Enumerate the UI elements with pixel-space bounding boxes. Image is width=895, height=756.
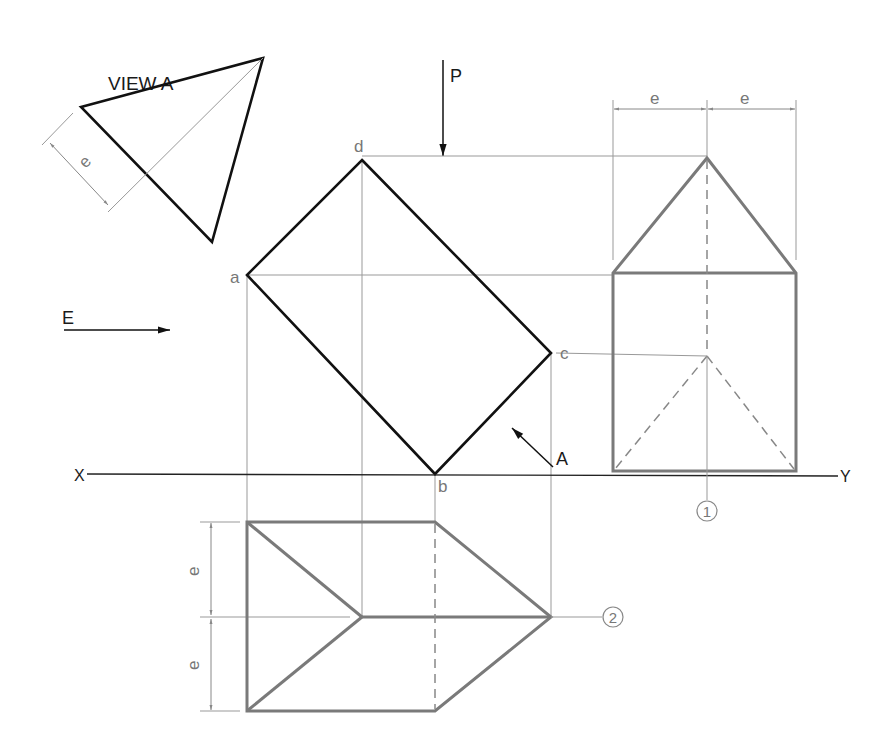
hip-edge-upper [247,522,362,617]
dimension-e-label: e [184,567,203,576]
arrow-e: E [62,308,170,330]
corner-label-d: d [354,137,363,156]
arrow-e-label: E [62,308,74,328]
xy-line [87,474,838,476]
dimension-e-label: e [740,89,749,108]
dimension-e-label: e [184,661,203,670]
corner-label-c: c [560,344,569,363]
projector-c [556,353,707,356]
plan-view: d a c b [230,137,707,617]
balloon-2-label: 2 [609,609,617,626]
extension-line [42,113,73,145]
plan-square [247,160,551,474]
hip-edge-lower [247,617,362,711]
arrow-a: A [512,428,568,469]
hidden-edge-right [707,356,794,469]
orthographic-drawing: VIEW A e P E d a c b A X [0,0,895,756]
view-a: VIEW A e [42,58,263,242]
arrow-a-label: A [556,449,568,469]
end-elevation: e e 1 [613,89,796,521]
arrow-p: P [443,60,462,156]
arrow-a-icon [512,428,553,467]
axis-y-label: Y [840,468,851,485]
dimension-e-label: e [650,89,659,108]
hidden-edge-left [615,356,707,469]
axis-x-label: X [74,467,85,484]
balloon-1-label: 1 [703,503,711,520]
end-elevation-outline [613,158,796,471]
arrow-p-label: P [450,66,462,86]
dimension-e-label: e [75,152,95,172]
view-a-dimension-e [50,143,108,205]
corner-label-b: b [438,477,447,496]
corner-label-a: a [230,268,240,287]
front-elevation: e e 2 [184,522,623,711]
